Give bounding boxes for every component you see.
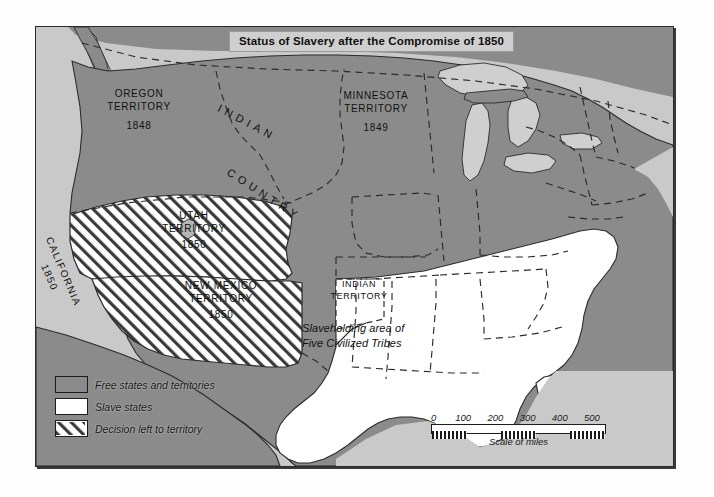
- scale-segment-2: [467, 425, 502, 433]
- utah-territory-region: [70, 195, 292, 281]
- scale-tick-0: 0: [431, 412, 445, 423]
- legend-swatch-slave: [55, 398, 88, 415]
- scale-segment-1: [432, 425, 467, 433]
- legend-swatch-open: [55, 420, 88, 437]
- scale-tick-200: 200: [481, 412, 509, 423]
- map-legend: Free states and territories Slave states…: [55, 375, 215, 441]
- scale-tick-400: 400: [546, 412, 574, 423]
- page-canvas: Status of Slavery after the Compromise o…: [0, 0, 714, 497]
- legend-label-slave: Slave states: [95, 401, 152, 413]
- legend-item-free: Free states and territories: [55, 375, 215, 394]
- scale-seg-1-fill: [432, 431, 467, 439]
- legend-label-free: Free states and territories: [95, 379, 215, 391]
- scale-segment-4: [536, 425, 571, 433]
- scale-tick-500: 500: [578, 412, 606, 423]
- scale-bar-graphic: [431, 424, 606, 434]
- map-title-box: Status of Slavery after the Compromise o…: [229, 31, 514, 52]
- legend-swatch-free: [55, 376, 88, 393]
- map-frame: Status of Slavery after the Compromise o…: [35, 26, 674, 467]
- page-title: Status of Slavery after the Compromise o…: [239, 35, 504, 47]
- scale-tick-100: 100: [449, 412, 477, 423]
- hatch-pattern-icon: [56, 422, 85, 435]
- legend-item-slave: Slave states: [55, 397, 215, 416]
- legend-item-open: Decision left to territory: [55, 419, 215, 438]
- scale-segment-3: [501, 425, 536, 433]
- map-scale-bar: 0 100 200 300 400 500 Scale: [431, 412, 606, 447]
- legend-label-open: Decision left to territory: [95, 423, 202, 435]
- scale-tick-300: 300: [514, 412, 542, 423]
- scale-tick-labels: 0 100 200 300 400 500: [431, 412, 606, 423]
- scale-segment-5: [570, 425, 605, 433]
- scale-seg-5-fill: [570, 431, 605, 439]
